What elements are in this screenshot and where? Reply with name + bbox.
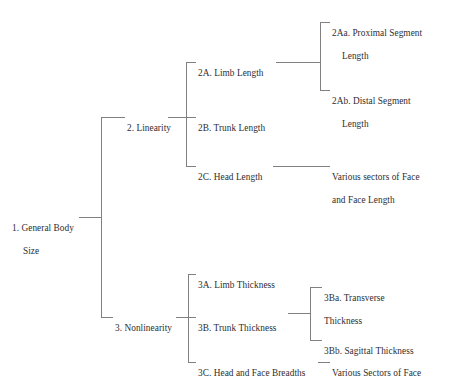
node-various-sectors-of-face: Various Sectors of Face [332, 356, 421, 379]
node-limb-thickness-label: 3A. Limb Thickness [198, 280, 275, 290]
node-linearity-label: 2. Linearity [127, 123, 171, 133]
node-distal-segment-length-line1: 2Ab. Distal Segment [332, 96, 411, 106]
node-head-length: 2C. Head Length [198, 160, 263, 183]
node-head-length-label: 2C. Head Length [198, 172, 263, 182]
node-sagittal-thickness: 3Bb. Sagittal Thickness [324, 334, 414, 357]
node-general-body-size: 1. General Body Size [12, 211, 82, 269]
node-limb-thickness: 3A. Limb Thickness [198, 268, 275, 291]
node-nonlinearity-label: 3. Nonlinearity [115, 323, 172, 333]
node-trunk-thickness: 3B. Trunk Thickness [198, 311, 277, 334]
node-face-sectors-and-length-line2: and Face Length [332, 195, 452, 207]
node-general-body-size-line2: Size [12, 246, 82, 258]
node-proximal-segment-length-line1: 2Aa. Proximal Segment [332, 28, 422, 38]
node-general-body-size-line1: 1. General Body [12, 223, 74, 233]
node-limb-length: 2A. Limb Length [198, 56, 264, 79]
node-trunk-length: 2B. Trunk Length [198, 111, 265, 134]
node-linearity: 2. Linearity [127, 111, 171, 134]
node-head-and-face-breadths: 3C. Head and Face Breadths [198, 356, 305, 379]
node-distal-segment-length: 2Ab. Distal Segment Length [332, 84, 450, 142]
node-sagittal-thickness-label: 3Bb. Sagittal Thickness [324, 346, 414, 356]
node-limb-length-label: 2A. Limb Length [198, 68, 264, 78]
node-distal-segment-length-line2: Length [332, 119, 450, 131]
node-trunk-thickness-label: 3B. Trunk Thickness [198, 323, 277, 333]
node-transverse-thickness: 3Ba. Transverse Thickness [324, 281, 434, 339]
node-transverse-thickness-line1: 3Ba. Transverse [324, 293, 385, 303]
node-head-and-face-breadths-label: 3C. Head and Face Breadths [198, 368, 305, 378]
node-proximal-segment-length: 2Aa. Proximal Segment Length [332, 16, 450, 74]
node-face-sectors-and-length: Various sectors of Face and Face Length [332, 160, 452, 218]
node-nonlinearity: 3. Nonlinearity [115, 311, 172, 334]
tree-diagram: 1. General Body Size 2. Linearity 3. Non… [0, 0, 455, 385]
node-various-sectors-of-face-label: Various Sectors of Face [332, 368, 421, 378]
node-transverse-thickness-line2: Thickness [324, 316, 434, 328]
node-face-sectors-and-length-line1: Various sectors of Face [332, 172, 420, 182]
node-proximal-segment-length-line2: Length [332, 51, 450, 63]
node-trunk-length-label: 2B. Trunk Length [198, 123, 265, 133]
